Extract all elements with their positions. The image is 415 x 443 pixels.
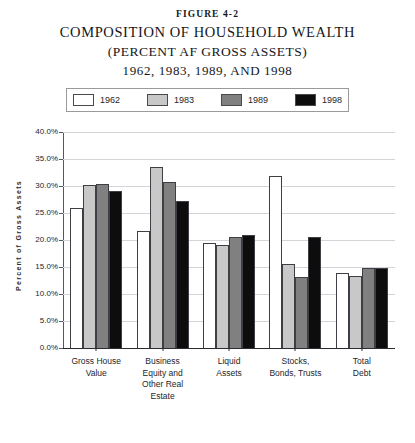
x-axis-category-label: Stocks,Bonds, Trusts bbox=[262, 356, 328, 402]
bar-group bbox=[329, 132, 395, 348]
category-label-line: Gross House bbox=[64, 356, 128, 368]
legend-label-1998: 1998 bbox=[322, 96, 342, 105]
legend-label-1962: 1962 bbox=[100, 96, 120, 105]
category-label-line: Bonds, Trusts bbox=[263, 368, 327, 380]
bars bbox=[129, 132, 195, 348]
bars bbox=[196, 132, 262, 348]
category-label-line: Stocks, bbox=[263, 356, 327, 368]
figure-title-line-3: 1962, 1983, 1989, AND 1998 bbox=[0, 63, 415, 79]
y-axis-tick-label: 10.0% bbox=[14, 290, 58, 298]
y-axis-tick-label: 5.0% bbox=[14, 317, 58, 325]
legend-label-1989: 1989 bbox=[248, 96, 268, 105]
category-label-line: Other Real bbox=[130, 379, 194, 391]
category-label-line: Debt bbox=[330, 368, 394, 380]
bar-group bbox=[262, 132, 328, 348]
y-axis-tick-label: 15.0% bbox=[14, 263, 58, 271]
chart-area: Percent of Gross Assets 0.0%5.0%10.0%15.… bbox=[0, 124, 415, 424]
legend-swatch-1998 bbox=[295, 94, 316, 106]
bar-group bbox=[63, 132, 129, 348]
bar-1962 bbox=[70, 208, 83, 348]
legend-swatch-1983 bbox=[147, 94, 168, 106]
figure-titles: FIGURE 4-2 COMPOSITION OF HOUSEHOLD WEAL… bbox=[0, 0, 415, 79]
bars bbox=[329, 132, 395, 348]
bar-1962 bbox=[269, 176, 282, 348]
category-label-line: Business bbox=[130, 356, 194, 368]
figure-container: FIGURE 4-2 COMPOSITION OF HOUSEHOLD WEAL… bbox=[0, 0, 415, 443]
figure-title-line-1: COMPOSITION OF HOUSEHOLD WEALTH bbox=[0, 24, 415, 41]
bar-1962 bbox=[137, 231, 150, 348]
bar-1983 bbox=[150, 167, 163, 348]
figure-number: FIGURE 4-2 bbox=[0, 9, 415, 19]
category-label-line: Total bbox=[330, 356, 394, 368]
legend-swatch-1989 bbox=[221, 94, 242, 106]
bar-1983 bbox=[349, 276, 362, 348]
bar-1989 bbox=[163, 182, 176, 348]
bar-group bbox=[129, 132, 195, 348]
x-axis-line bbox=[63, 348, 395, 349]
bar-group bbox=[196, 132, 262, 348]
bar-1998 bbox=[176, 201, 189, 348]
figure-title-line-2: (PERCENT AF GROSS ASSETS) bbox=[0, 44, 415, 60]
legend-item-1989: 1989 bbox=[221, 94, 268, 106]
bar-1989 bbox=[229, 237, 242, 348]
bar-1962 bbox=[203, 243, 216, 348]
category-label-line: Estate bbox=[130, 391, 194, 403]
legend-item-1983: 1983 bbox=[147, 94, 194, 106]
bar-1998 bbox=[242, 235, 255, 348]
bar-1962 bbox=[336, 273, 349, 348]
plot-area bbox=[63, 132, 395, 348]
bars bbox=[262, 132, 328, 348]
category-label-line: Assets bbox=[197, 368, 261, 380]
x-axis-category-label: LiquidAssets bbox=[196, 356, 262, 402]
x-axis-category-labels: Gross HouseValueBusinessEquity andOther … bbox=[63, 356, 395, 402]
legend-item-1998: 1998 bbox=[295, 94, 342, 106]
bar-1989 bbox=[295, 277, 308, 348]
bar-1989 bbox=[96, 184, 109, 348]
bar-1998 bbox=[308, 237, 321, 348]
bar-1998 bbox=[109, 191, 122, 348]
bar-1983 bbox=[83, 185, 96, 348]
x-axis-category-label: Gross HouseValue bbox=[63, 356, 129, 402]
legend-label-1983: 1983 bbox=[174, 96, 194, 105]
legend-item-1962: 1962 bbox=[73, 94, 120, 106]
bars bbox=[63, 132, 129, 348]
bar-1983 bbox=[282, 264, 295, 348]
y-axis-tick-labels: 0.0%5.0%10.0%15.0%20.0%25.0%30.0%35.0%40… bbox=[8, 132, 58, 348]
bar-groups bbox=[63, 132, 395, 348]
y-axis-tick-label: 0.0% bbox=[14, 344, 58, 352]
category-label-line: Value bbox=[64, 368, 128, 380]
y-axis-tick-label: 25.0% bbox=[14, 209, 58, 217]
y-axis-tick-label: 40.0% bbox=[14, 128, 58, 136]
y-axis-tick-label: 20.0% bbox=[14, 236, 58, 244]
bar-1989 bbox=[362, 268, 375, 348]
y-axis-tick-label: 30.0% bbox=[14, 182, 58, 190]
x-axis-category-label: BusinessEquity andOther RealEstate bbox=[129, 356, 195, 402]
category-label-line: Equity and bbox=[130, 368, 194, 380]
legend-swatch-1962 bbox=[73, 94, 94, 106]
category-label-line: Liquid bbox=[197, 356, 261, 368]
chart-legend: 1962198319891998 bbox=[66, 88, 349, 112]
bar-1998 bbox=[375, 268, 388, 348]
y-axis-tick-label: 35.0% bbox=[14, 155, 58, 163]
x-axis-category-label: TotalDebt bbox=[329, 356, 395, 402]
bar-1983 bbox=[216, 245, 229, 348]
